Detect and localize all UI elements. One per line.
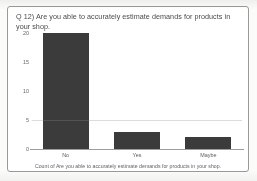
chart-caption: Count of Are you able to accurately esti… [8,163,248,169]
y-axis-tick-label: 15 [14,59,29,65]
x-axis-label-yes: Yes [114,152,160,158]
chart-card: Q 12) Are you able to accurately estimat… [7,6,249,172]
y-axis-tick-label: 10 [14,88,29,94]
scanned-page: Q 12) Are you able to accurately estimat… [0,0,257,181]
bar-slot [114,33,160,149]
bar-slot [185,33,231,149]
y-axis: 05101520 [14,33,29,150]
y-axis-tick-label: 20 [14,30,29,36]
x-axis-labels: NoYesMaybe [30,152,242,162]
x-axis-baseline [30,149,244,150]
bar-yes[interactable] [114,132,160,149]
plot-area: 05101520 [8,33,249,150]
y-axis-tick-label: 5 [14,117,29,123]
bar-group [30,33,244,149]
x-axis-label-maybe: Maybe [185,152,231,158]
gridline [32,120,242,121]
bar-no[interactable] [43,33,89,149]
chart-title: Q 12) Are you able to accurately estimat… [16,12,238,31]
bar-slot [43,33,89,149]
x-axis-label-no: No [43,152,89,158]
bar-maybe[interactable] [185,137,231,149]
y-axis-tick-label: 0 [14,146,29,152]
